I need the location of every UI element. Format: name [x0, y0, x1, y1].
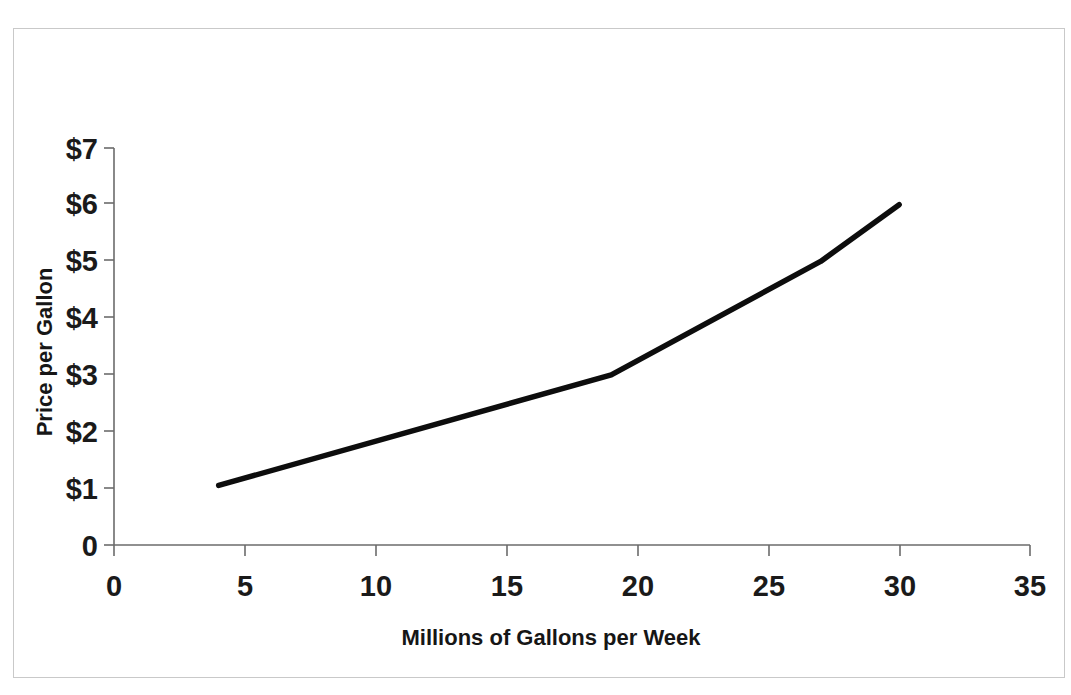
y-tick-label-5: $5 [66, 245, 98, 277]
y-tick-label-7: $7 [66, 133, 98, 165]
x-axis-title: Millions of Gallons per Week [401, 625, 701, 650]
x-tick-label-30: 30 [884, 570, 916, 602]
x-tick-label-20: 20 [622, 570, 654, 602]
x-tick-label-0: 0 [106, 570, 122, 602]
y-axis-ticks [104, 148, 114, 545]
x-tick-label-10: 10 [360, 570, 392, 602]
y-tick-label-1: $1 [66, 473, 98, 505]
x-tick-label-15: 15 [491, 570, 523, 602]
y-tick-label-4: $4 [66, 302, 98, 334]
x-axis-ticks [114, 545, 1030, 556]
y-tick-label-0: 0 [82, 530, 98, 562]
x-tick-labels: 0 5 10 15 20 25 30 35 [106, 570, 1046, 602]
y-tick-labels: 0 $1 $2 $3 $4 $5 $6 $7 [66, 133, 98, 562]
x-tick-label-5: 5 [237, 570, 253, 602]
y-axis-title: Price per Gallon [32, 268, 57, 437]
chart-screenshot: 0 $1 $2 $3 $4 $5 $6 $7 0 5 10 15 20 25 3… [0, 0, 1071, 695]
y-tick-label-2: $2 [66, 416, 98, 448]
x-tick-label-35: 35 [1014, 570, 1046, 602]
supply-curve-chart: 0 $1 $2 $3 $4 $5 $6 $7 0 5 10 15 20 25 3… [0, 0, 1071, 695]
supply-curve-line [219, 205, 899, 486]
x-tick-label-25: 25 [753, 570, 785, 602]
y-tick-label-6: $6 [66, 188, 98, 220]
y-tick-label-3: $3 [66, 359, 98, 391]
